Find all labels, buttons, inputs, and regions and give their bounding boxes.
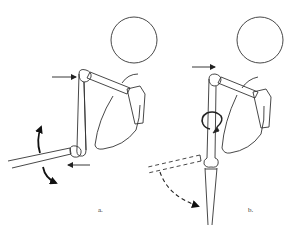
clavicle-b (218, 77, 258, 98)
elbow-joint-b (204, 158, 218, 167)
shoulder-manipulation-diagram (0, 0, 298, 235)
forearm-b (205, 168, 217, 225)
circular-rotation-arrow-b (202, 112, 222, 133)
panel-b (204, 17, 283, 225)
torso-a (95, 96, 140, 149)
panel-a (8, 17, 157, 168)
panel-label-a: a. (98, 206, 103, 214)
humerus-b (207, 79, 216, 158)
clavicle-a (87, 72, 130, 94)
humerus-inner-a (84, 82, 86, 150)
scapula-a (127, 86, 145, 124)
previous-forearm-end-b (200, 155, 201, 161)
scapula-b (253, 89, 271, 128)
head-circle-a (111, 17, 157, 63)
elbow-joint-a (70, 146, 81, 157)
swing-arrow-b (160, 172, 198, 206)
rotation-arrow-up-a (38, 127, 41, 153)
shoulder-joint-a (79, 70, 91, 83)
rotation-arrow-down-a (43, 167, 56, 183)
shoulder-curve-a (122, 74, 138, 83)
torso-b (222, 95, 264, 153)
previous-forearm-position-b (148, 155, 201, 173)
head-circle-b (237, 17, 283, 63)
panel-label-b: b. (248, 206, 253, 214)
